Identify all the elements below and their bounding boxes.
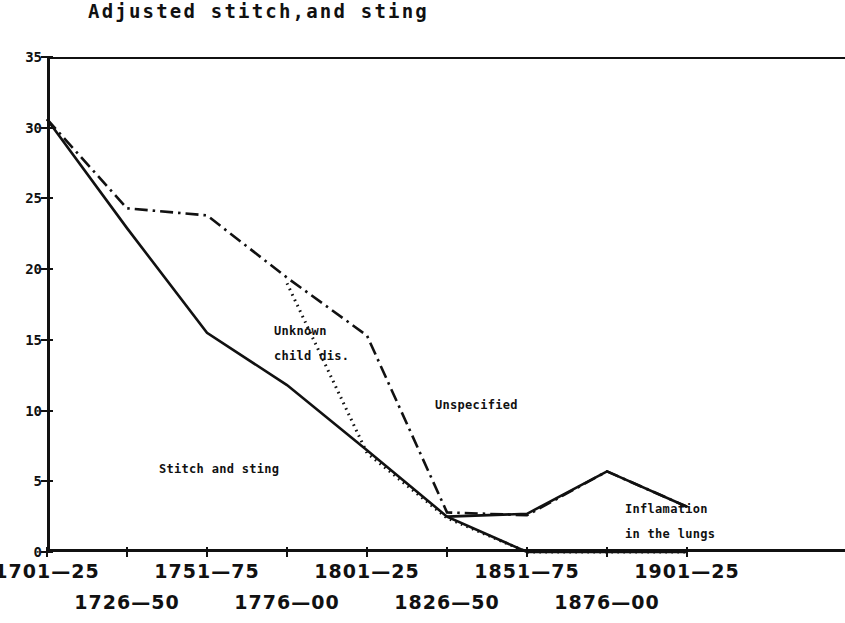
x-axis-tick-label: 1826—50 — [394, 591, 499, 613]
series-line-stitch-and-sting — [47, 119, 687, 552]
annotation-inflamation-line1: Inflamation — [625, 497, 708, 522]
y-axis-tick-label: 35 — [25, 49, 42, 65]
y-axis-tick-label: 20 — [25, 261, 42, 277]
y-axis-tick-label: 10 — [25, 403, 42, 419]
annotation-stitch-and-sting: Stitch and sting — [159, 457, 279, 482]
x-axis-tick-label: 1876—00 — [554, 591, 659, 613]
annotation-unknown-child-dis-line1: Unknown — [274, 319, 327, 344]
x-axis-tick-label: 1901—25 — [634, 560, 739, 582]
x-axis-tick-label: 1851—75 — [474, 560, 579, 582]
chart-canvas: Adjusted stitch,and sting 35302520151050… — [0, 0, 845, 623]
y-axis-tick-label: 30 — [25, 120, 42, 136]
annotation-unknown-child-dis-line2: child dis. — [274, 344, 349, 369]
chart-title: Adjusted stitch,and sting — [88, 0, 429, 22]
x-axis-tick-label: 1776—00 — [234, 591, 339, 613]
x-axis-tick-label: 1751—75 — [154, 560, 259, 582]
y-axis-tick-label: 25 — [25, 190, 42, 206]
plot-area: Unknown child dis. Unspecified Stitch an… — [47, 57, 845, 552]
annotation-unspecified: Unspecified — [435, 393, 518, 418]
x-axis-tick-labels: 1701—251726—501751—751776—001801—251826—… — [0, 556, 845, 623]
x-axis-tick-label: 1701—25 — [0, 560, 100, 582]
x-axis-tick-label: 1726—50 — [74, 591, 179, 613]
y-axis-tick-label: 15 — [25, 332, 42, 348]
annotation-inflamation-line2: in the lungs — [625, 522, 715, 547]
y-axis-tick-labels: 35302520151050 — [0, 57, 42, 552]
series-line-unknown-child-dis — [47, 119, 687, 515]
x-axis-tick-label: 1801—25 — [314, 560, 419, 582]
